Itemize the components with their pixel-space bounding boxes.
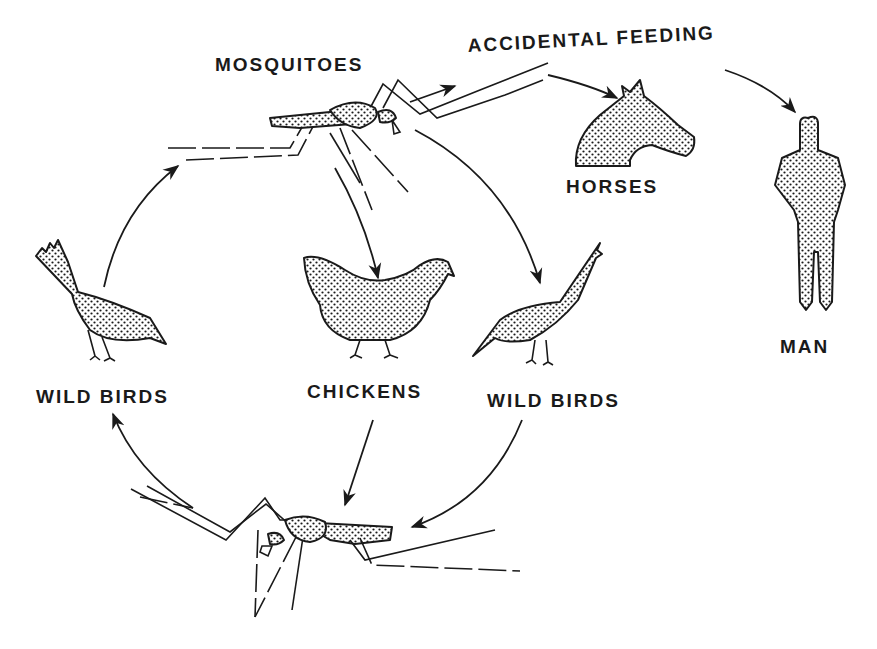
chicken-icon	[304, 257, 454, 358]
horse-head-icon	[576, 80, 694, 166]
wild-bird-icon	[36, 240, 166, 361]
wild-bird-icon	[473, 243, 602, 365]
arrow-accidental-to-man	[725, 70, 795, 112]
arrow-accidental-to-horses	[548, 75, 617, 98]
mosquito-icon	[168, 63, 548, 210]
arrow-wild-birds-right-to-mosquito-bottom	[412, 420, 522, 527]
label-wild-birds-right: WILD BIRDS	[487, 390, 620, 411]
human-figure-icon	[775, 117, 845, 310]
arrow-mosquito-to-accidental	[410, 86, 455, 102]
label-man: MAN	[780, 336, 829, 357]
arrow-chickens-to-mosquito-bottom	[345, 420, 373, 505]
label-accidental-feeding: ACCIDENTAL FEEDING	[467, 22, 715, 56]
label-mosquitoes: MOSQUITOES	[215, 54, 363, 75]
transmission-cycle-diagram: MOSQUITOES ACCIDENTAL FEEDING HORSES MAN…	[0, 0, 877, 649]
arrow-mosquito-bottom-to-wild-birds-left	[113, 414, 193, 508]
label-wild-birds-left: WILD BIRDS	[36, 386, 169, 407]
label-chickens: CHICKENS	[307, 381, 422, 402]
label-horses: HORSES	[566, 176, 658, 197]
arrow-mosquito-to-chickens	[335, 168, 378, 278]
arrow-wild-birds-left-to-mosquito	[104, 166, 178, 287]
